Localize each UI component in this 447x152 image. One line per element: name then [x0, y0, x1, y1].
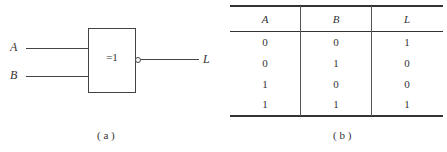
- table-cell: 1: [301, 57, 371, 69]
- gate-symbol: =1: [89, 51, 135, 63]
- table-cell: 0: [372, 78, 442, 90]
- input-b-label: B: [10, 68, 17, 83]
- table-cell: 1: [230, 98, 300, 110]
- table-bottom-border: [230, 115, 443, 117]
- table-cell: 0: [230, 57, 300, 69]
- table-cell: 1: [301, 98, 371, 110]
- table-cell: 0: [301, 36, 371, 48]
- table-cell: 0: [230, 36, 300, 48]
- table-cell: 1: [372, 36, 442, 48]
- table-cell: 1: [372, 98, 442, 110]
- caption-a: ( a ): [97, 129, 115, 141]
- inversion-bubble-icon: [135, 57, 141, 63]
- caption-b: ( b ): [333, 129, 351, 141]
- input-a-wire: [26, 48, 89, 49]
- table-cell: 1: [230, 78, 300, 90]
- header-divider: [230, 31, 443, 32]
- output-wire: [141, 59, 199, 60]
- header-l: L: [372, 13, 442, 25]
- table-top-border: [230, 5, 443, 7]
- header-a: A: [230, 13, 300, 25]
- input-a-label: A: [10, 40, 17, 55]
- output-l-label: L: [203, 52, 210, 67]
- table-cell: 0: [372, 57, 442, 69]
- header-b: B: [301, 13, 371, 25]
- input-b-wire: [26, 76, 89, 77]
- table-cell: 0: [301, 78, 371, 90]
- xnor-gate-box: =1: [88, 28, 136, 93]
